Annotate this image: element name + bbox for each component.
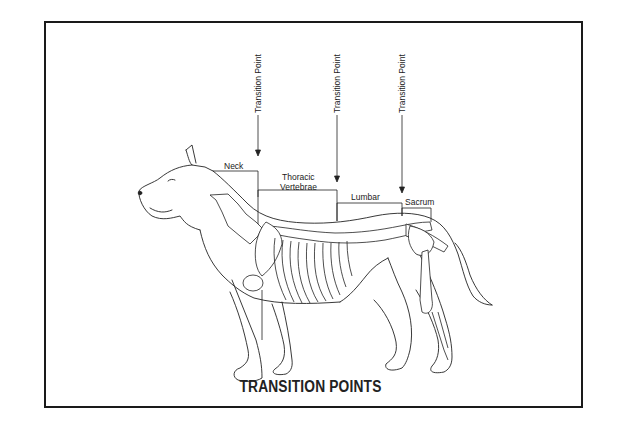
transition-point-label-1: Transition Point	[253, 54, 263, 113]
rib-cage	[274, 238, 352, 303]
transition-point-label-3: Transition Point	[397, 54, 407, 113]
dog-outline	[138, 145, 492, 381]
region-label-lumbar: Lumbar	[351, 192, 380, 202]
dog-skeleton-diagram: Transition Point Transition Point Transi…	[0, 0, 621, 433]
region-label-thoracic: Thoracic	[282, 172, 315, 182]
diagram-title: TRANSITION POINTS	[43, 378, 577, 396]
transition-point-label-2: Transition Point	[332, 54, 342, 113]
transition-arrow-3	[400, 115, 405, 193]
region-label-sacrum: Sacrum	[405, 197, 434, 207]
transition-arrow-1	[256, 115, 261, 156]
transition-arrow-2	[335, 115, 340, 182]
region-label-vertebrae: Vertebrae	[280, 182, 317, 192]
region-label-neck: Neck	[224, 161, 244, 171]
